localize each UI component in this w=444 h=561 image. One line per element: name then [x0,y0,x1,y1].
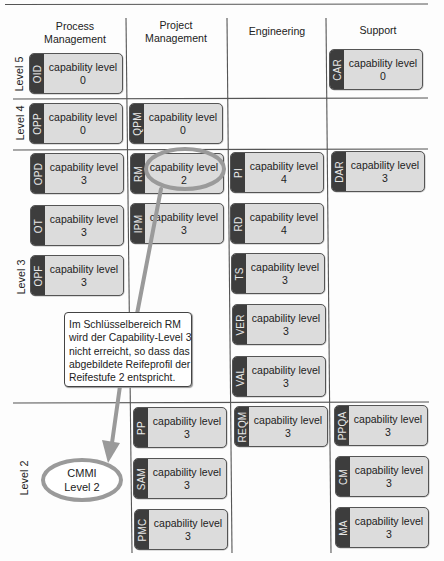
rm-highlight-ellipse [146,149,224,189]
cmmi-maturity-diagram: Process Management Project Management En… [0,0,444,561]
callout-line: Reifestufe 2 entspricht. [69,371,188,384]
badge-line: Level 2 [64,480,99,494]
callout-line: nicht erreicht, so dass das [69,345,188,358]
callout-line: Im Schlüsselbereich RM [69,318,188,331]
badge-line: CMMI [67,466,96,480]
callout-line: abgebildete Reifeprofil der [69,358,188,371]
cmmi-level-badge: CMMI Level 2 [42,459,122,501]
connector-line [137,189,161,314]
arrow-shaft [112,386,120,443]
callout-note: Im Schlüsselbereich RM wird der Capabili… [64,312,192,387]
callout-line: wird der Capability-Level 3 [69,331,188,344]
